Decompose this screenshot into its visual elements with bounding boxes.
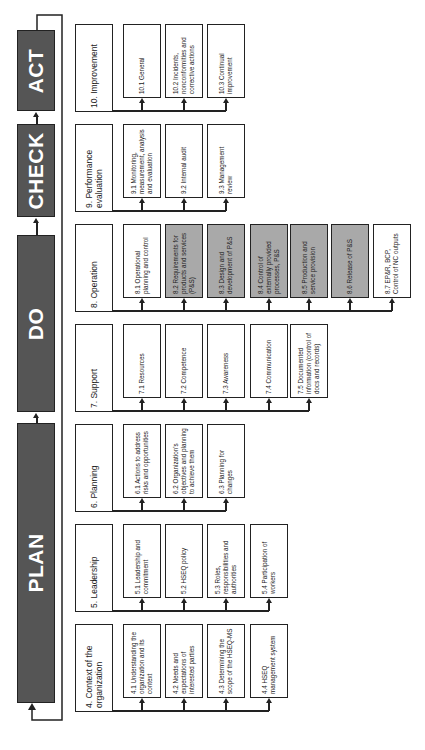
pdca-loop-connector bbox=[0, 0, 425, 750]
